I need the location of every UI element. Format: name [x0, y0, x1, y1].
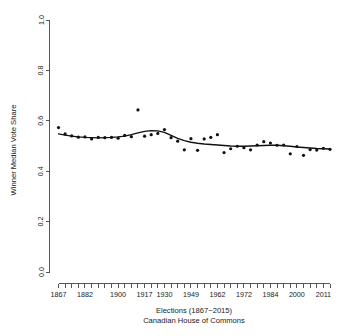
x-axis: 1867188219001917193019491962197219842000… — [51, 284, 332, 300]
data-point — [90, 137, 93, 140]
loess-trend-line — [59, 131, 331, 149]
y-axis-title: Winner Median Vote Share — [9, 105, 18, 196]
data-point — [256, 143, 259, 146]
x-tick-label: 1867 — [51, 290, 67, 299]
data-point — [315, 148, 318, 151]
data-point — [209, 136, 212, 139]
y-tick-label: 0.2 — [37, 217, 46, 227]
data-point — [282, 143, 285, 146]
data-point — [97, 136, 100, 139]
data-point — [103, 136, 106, 139]
y-tick-label: 0.8 — [37, 65, 46, 75]
data-point — [143, 135, 146, 138]
data-point — [289, 152, 292, 155]
trend-line-path — [59, 131, 331, 149]
data-point — [70, 134, 73, 137]
data-point — [229, 147, 232, 150]
x-tick-label: 1949 — [183, 290, 199, 299]
data-point — [163, 128, 166, 131]
x-tick-label: 1930 — [156, 290, 172, 299]
x-axis-title-line1: Elections (1867−2015) — [156, 306, 233, 315]
data-point — [322, 147, 325, 150]
y-tick-label: 0.6 — [37, 116, 46, 126]
data-point — [130, 135, 133, 138]
data-point — [269, 141, 272, 144]
data-point — [64, 132, 67, 135]
data-point — [183, 148, 186, 151]
data-point — [222, 151, 225, 154]
data-point — [123, 134, 126, 137]
x-tick-label: 1900 — [110, 290, 126, 299]
y-tick-label: 0.4 — [37, 166, 46, 176]
data-point — [156, 132, 159, 135]
data-point — [57, 126, 60, 129]
data-point — [203, 137, 206, 140]
x-tick-label: 1882 — [77, 290, 93, 299]
chart-plot-area: 0.00.20.40.60.81.0 186718821900191719301… — [0, 0, 345, 336]
data-point — [176, 140, 179, 143]
data-point — [136, 108, 139, 111]
data-point — [328, 148, 331, 151]
data-point — [302, 154, 305, 157]
data-point — [110, 136, 113, 139]
x-tick-label: 1917 — [137, 290, 153, 299]
x-tick-label: 1962 — [209, 290, 225, 299]
data-point — [275, 144, 278, 147]
y-tick-label: 0.0 — [37, 267, 46, 277]
x-axis-title-line2: Canadian House of Commons — [143, 316, 245, 325]
data-point — [249, 148, 252, 151]
data-point — [169, 136, 172, 139]
x-tick-label: 2000 — [289, 290, 305, 299]
chart-figure: 0.00.20.40.60.81.0 186718821900191719301… — [0, 0, 345, 336]
scatter-points — [57, 108, 332, 157]
data-point — [189, 137, 192, 140]
data-point — [117, 137, 120, 140]
data-point — [150, 133, 153, 136]
data-point — [77, 136, 80, 139]
data-point — [216, 133, 219, 136]
x-tick-label: 1984 — [262, 290, 278, 299]
data-point — [196, 149, 199, 152]
data-point — [309, 148, 312, 151]
data-point — [242, 146, 245, 149]
x-tick-label: 1972 — [236, 290, 252, 299]
x-tick-label: 2011 — [316, 290, 331, 299]
data-point — [295, 145, 298, 148]
data-point — [236, 145, 239, 148]
y-tick-label: 1.0 — [37, 15, 46, 25]
data-point — [83, 135, 86, 138]
y-axis: 0.00.20.40.60.81.0 — [37, 15, 50, 277]
data-point — [262, 140, 265, 143]
